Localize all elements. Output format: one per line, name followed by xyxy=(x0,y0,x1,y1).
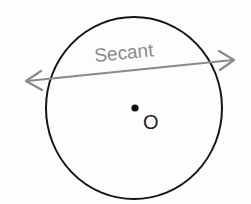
center-point xyxy=(131,104,138,111)
center-label: O xyxy=(143,111,159,133)
diagram-svg: Secant O xyxy=(0,0,251,204)
secant-diagram: Secant O xyxy=(0,0,251,204)
secant-label: Secant xyxy=(93,39,155,66)
